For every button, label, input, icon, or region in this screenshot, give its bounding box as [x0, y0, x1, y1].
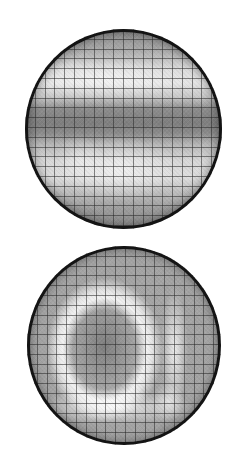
wafer-map-bottom-rim	[27, 246, 221, 445]
wafer-map-top	[25, 29, 222, 229]
wafer-map-top-rim	[25, 29, 222, 229]
wafer-map-bottom	[27, 246, 221, 445]
